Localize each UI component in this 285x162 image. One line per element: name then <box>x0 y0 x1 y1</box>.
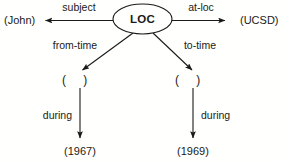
node-label-year-1967: (1967) <box>64 145 96 157</box>
node-label-john: (John) <box>4 14 35 26</box>
node-label-to-slot: ( ) <box>175 73 207 87</box>
edge-label-from-time: from-time <box>53 39 97 51</box>
edge-label-during-right: during <box>201 109 230 121</box>
node-label-loc: LOC <box>130 13 155 25</box>
edge-label-at-loc: at-loc <box>188 1 214 13</box>
node-label-year-1969: (1969) <box>177 145 209 157</box>
edge-label-subject: subject <box>62 1 95 13</box>
edge-label-during-left: during <box>43 109 72 121</box>
node-label-ucsd: (UCSD) <box>240 14 279 26</box>
semantic-network-graph: subject at-loc from-time to-time during … <box>0 0 285 162</box>
diagram-canvas: subject at-loc from-time to-time during … <box>0 0 285 162</box>
node-label-from-slot: ( ) <box>62 73 94 87</box>
edge-label-to-time: to-time <box>184 39 216 51</box>
